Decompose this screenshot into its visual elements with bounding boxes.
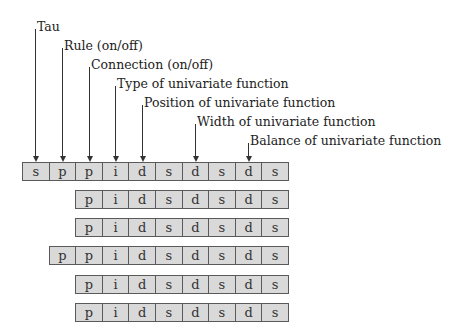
pointer-line [195,124,196,156]
gene-cell: p [75,275,103,294]
pointer-line [35,29,36,156]
label-type-of-univariate-function: Type of univariate function [117,77,289,91]
gene-cell: s [155,190,183,209]
gene-cell: d [235,303,263,322]
gene-cell: i [102,162,130,181]
gene-cell: s [261,162,289,181]
label-connection-on-off: Connection (on/off) [91,58,213,72]
gene-cell: p [49,162,77,181]
gene-cell: s [208,246,236,265]
gene-cell: d [128,190,156,209]
gene-cell: d [235,275,263,294]
gene-cell: p [75,218,103,237]
gene-row: pidsdsds [75,190,288,209]
label-balance-of-univariate-function: Balance of univariate function [250,134,441,148]
gene-cell: s [208,190,236,209]
gene-cell: d [182,303,210,322]
gene-row: sppidsdsds [22,162,288,181]
gene-cell: i [102,246,130,265]
gene-cell: d [182,218,210,237]
label-width-of-univariate-function: Width of univariate function [197,115,376,129]
gene-cell: s [155,275,183,294]
gene-cell: i [102,218,130,237]
gene-row: pidsdsds [75,303,288,322]
gene-cell: p [75,190,103,209]
gene-cell: d [235,218,263,237]
gene-cell: d [235,162,263,181]
gene-cell: s [261,218,289,237]
gene-cell: d [128,246,156,265]
label-tau: Tau [37,20,60,34]
label-position-of-univariate-function: Position of univariate function [144,96,335,110]
gene-cell: i [102,190,130,209]
gene-cell: p [75,162,103,181]
gene-cell: p [49,246,77,265]
pointer-line [62,48,63,156]
label-rule-on-off: Rule (on/off) [64,39,143,53]
gene-cell: s [208,218,236,237]
gene-cell: s [155,218,183,237]
gene-cell: d [128,275,156,294]
pointer-line [115,86,116,156]
gene-cell: s [208,162,236,181]
gene-cell: i [102,275,130,294]
gene-cell: s [261,303,289,322]
gene-cell: s [155,246,183,265]
gene-cell: p [75,246,103,265]
gene-cell: s [22,162,50,181]
gene-cell: p [75,303,103,322]
gene-row: pidsdsds [75,218,288,237]
gene-cell: s [208,275,236,294]
gene-cell: s [155,162,183,181]
gene-row: pidsdsds [75,275,288,294]
gene-cell: d [182,246,210,265]
gene-cell: s [155,303,183,322]
gene-cell: d [128,303,156,322]
gene-cell: s [261,246,289,265]
pointer-line [142,105,143,156]
gene-cell: d [128,218,156,237]
gene-cell: d [235,246,263,265]
pointer-line [248,143,249,156]
gene-cell: s [208,303,236,322]
gene-cell: s [261,190,289,209]
gene-cell: s [261,275,289,294]
gene-row: ppidsdsds [49,246,288,265]
gene-cell: d [182,190,210,209]
pointer-line [89,67,90,156]
gene-cell: d [128,162,156,181]
gene-cell: i [102,303,130,322]
gene-cell: d [182,275,210,294]
gene-cell: d [235,190,263,209]
gene-cell: d [182,162,210,181]
